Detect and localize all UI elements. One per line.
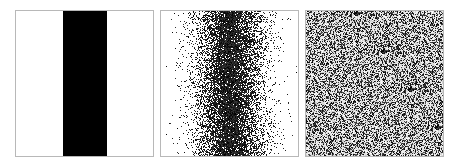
panel-diffused-band — [160, 10, 299, 157]
panel-uniform-noise — [305, 10, 444, 157]
uniform-noise-image — [306, 11, 443, 156]
sharp-band-image — [16, 11, 153, 156]
panel-sharp-band — [15, 10, 154, 157]
diffused-band-image — [161, 11, 298, 156]
